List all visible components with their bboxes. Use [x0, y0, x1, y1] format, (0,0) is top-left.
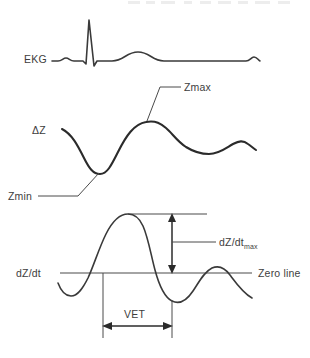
dzdt-trace-group — [58, 214, 252, 302]
ekg-label: EKG — [24, 53, 47, 65]
top-edge-artifact — [128, 1, 290, 4]
ekg-trace — [52, 20, 260, 66]
vet-dimension-arrow — [102, 322, 173, 330]
dzdt-max-label-subscript: max — [244, 243, 258, 250]
zero-line-label: Zero line — [258, 267, 301, 279]
zmin-label: Zmin — [8, 190, 32, 202]
zmax-label: Zmax — [184, 81, 212, 93]
vet-drop-lines — [103, 273, 172, 338]
vet-label: VET — [124, 308, 145, 320]
dzdt-trace — [58, 214, 252, 302]
waveform-canvas: EKG ΔZ Zmax Zmin dZ/dt Zero line — [0, 0, 310, 358]
dz-trace — [62, 121, 256, 174]
dz-label: ΔZ — [32, 124, 46, 136]
ekg-trace-group — [52, 20, 260, 66]
zmax-leader-line — [147, 87, 181, 121]
dzdt-max-dimension-arrow — [168, 213, 176, 274]
dzdt-max-label-main: dZ/dt — [219, 236, 244, 248]
zmin-leader-line — [38, 173, 99, 196]
dzdt-max-label: dZ/dtmax — [219, 236, 258, 250]
dz-trace-group — [62, 121, 256, 174]
icg-waveform-figure: EKG ΔZ Zmax Zmin dZ/dt Zero line — [0, 0, 310, 358]
dzdt-label: dZ/dt — [16, 267, 41, 279]
